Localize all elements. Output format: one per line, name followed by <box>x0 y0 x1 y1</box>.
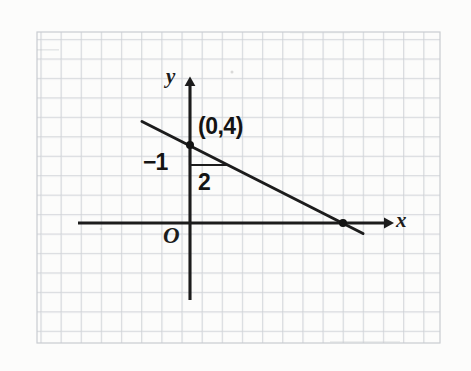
grid-lines <box>37 32 440 343</box>
y-axis-label: y <box>166 66 175 87</box>
figure-canvas: y x O (0,4) −1 2 <box>0 0 471 371</box>
x-intercept-dot <box>339 219 347 227</box>
y-intercept-dot <box>186 141 194 149</box>
slope-rise-label: −1 <box>143 151 167 174</box>
x-axis-label: x <box>396 210 407 231</box>
coordinate-graph <box>0 0 471 371</box>
slope-run-label: 2 <box>198 171 211 194</box>
point-coordinate-label: (0,4) <box>198 115 243 138</box>
origin-label: O <box>163 224 180 247</box>
